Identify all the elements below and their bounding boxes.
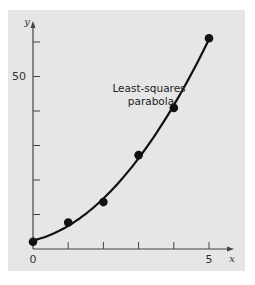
x-tick-label-0: 0 [30, 253, 37, 266]
curve-annotation-line2: parabola [128, 95, 174, 107]
data-point [205, 34, 214, 43]
x-axis-label: x [229, 253, 235, 264]
chart: 0 5 50 x y Least-squares parabola [0, 0, 255, 285]
curve-annotation-line1: Least-squares [112, 82, 185, 94]
data-point [134, 151, 143, 160]
data-point [29, 237, 38, 246]
data-point [64, 218, 73, 227]
data-point [99, 198, 108, 207]
plot-panel [8, 10, 245, 271]
y-tick-label-50: 50 [12, 70, 26, 83]
y-axis-label: y [23, 16, 30, 27]
x-tick-label-5: 5 [206, 253, 213, 266]
